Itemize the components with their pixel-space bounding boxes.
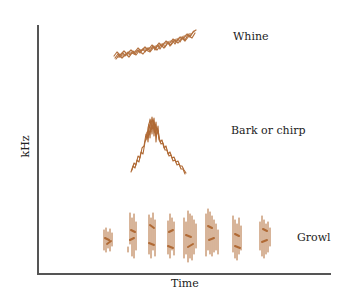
growl-burst-1 <box>104 228 112 252</box>
whine-label: Whine <box>233 30 269 43</box>
bark-label: Bark or chirp <box>231 124 306 137</box>
growl-burst-6 <box>206 209 218 256</box>
y-axis-label: kHz <box>19 135 32 157</box>
growl-burst-7 <box>233 216 241 260</box>
spectrogram-diagram: Whine Bark or chirp Growl kHz Time <box>0 0 349 300</box>
growl-burst-3 <box>149 213 155 258</box>
growl-trace <box>104 209 270 262</box>
growl-burst-2 <box>128 213 136 258</box>
growl-label: Growl <box>297 231 331 244</box>
growl-burst-4 <box>168 214 174 258</box>
bark-trace <box>131 117 186 174</box>
spectrogram-traces <box>0 0 349 300</box>
whine-trace <box>114 30 196 59</box>
x-axis-label: Time <box>171 277 199 290</box>
growl-burst-8 <box>260 216 270 258</box>
growl-burst-5 <box>184 211 196 262</box>
